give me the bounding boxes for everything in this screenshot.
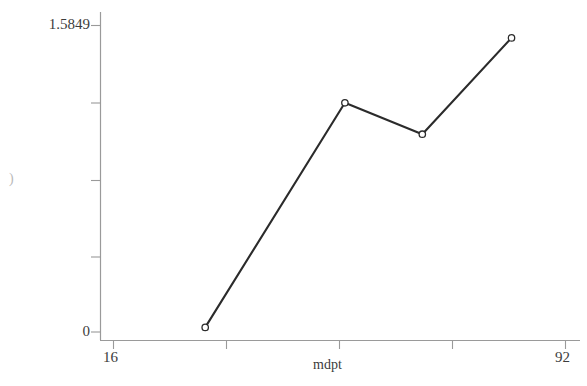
- data-point-4: [508, 35, 514, 41]
- x-axis-title: mdpt: [313, 358, 342, 372]
- data-point-2: [342, 100, 348, 106]
- y-axis-min-label: 0: [83, 324, 91, 339]
- data-point-1: [202, 324, 208, 330]
- data-point-3: [419, 131, 425, 137]
- y-axis-title: ): [9, 172, 13, 186]
- chart-canvas: 1.5849 0 ) 16 92 mdpt: [0, 0, 587, 386]
- x-axis-max-label: 92: [555, 350, 570, 365]
- y-axis-max-label: 1.5849: [49, 17, 90, 32]
- x-axis-min-label: 16: [103, 350, 118, 365]
